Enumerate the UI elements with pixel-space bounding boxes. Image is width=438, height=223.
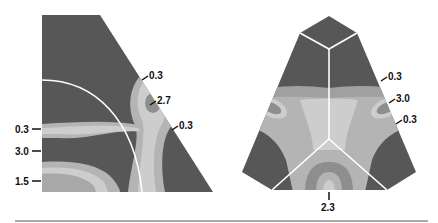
label-left-0-3-c: 0.3 bbox=[179, 120, 193, 131]
label-left-2-7: 2.7 bbox=[157, 95, 171, 106]
label-right-0-3-a: 0.3 bbox=[388, 71, 402, 82]
right-contour-map bbox=[240, 14, 420, 194]
tick-mark bbox=[381, 77, 387, 81]
label-left-3-0: 3.0 bbox=[15, 146, 29, 157]
label-right-0-3-b: 0.3 bbox=[403, 114, 417, 125]
label-left-0-3-b: 0.3 bbox=[149, 70, 163, 81]
label-right-2-3: 2.3 bbox=[321, 202, 335, 213]
label-left-0-3-a: 0.3 bbox=[15, 124, 29, 135]
tick-mark bbox=[172, 126, 178, 130]
right-upper-edge-band bbox=[240, 86, 420, 100]
tick-mark bbox=[389, 99, 395, 103]
left-contour-map bbox=[42, 15, 217, 195]
tick-mark bbox=[142, 76, 148, 80]
label-right-3-0: 3.0 bbox=[396, 93, 410, 104]
label-left-1-5: 1.5 bbox=[15, 176, 29, 187]
contour-figure: 0.3 3.0 1.5 0.3 2.7 0.3 0.3 bbox=[0, 0, 438, 223]
tick-mark bbox=[396, 120, 402, 124]
